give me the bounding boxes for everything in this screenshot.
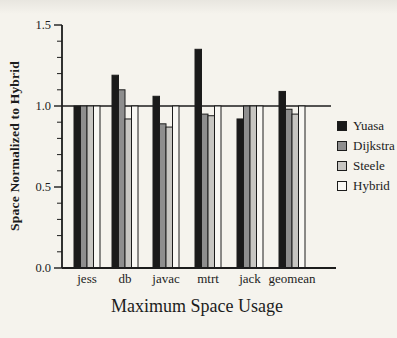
legend-swatch-yuasa (337, 121, 347, 131)
bar-steele-jess (87, 106, 94, 268)
x-tick-label-db: db (119, 271, 132, 286)
bar-dijkstra-jess (81, 106, 88, 268)
legend: YuasaDijkstraSteeleHybrid (337, 116, 395, 196)
scanned-figure-page: 0.00.51.01.5jessdbjavacmtrtjackgeomean S… (0, 0, 397, 338)
bar-yuasa-jack (237, 119, 244, 268)
legend-item-hybrid: Hybrid (337, 176, 395, 196)
x-axis-title: Maximum Space Usage (111, 296, 283, 317)
bar-hybrid-javac (173, 106, 180, 268)
x-tick-label-javac: javac (151, 271, 180, 286)
bar-yuasa-javac (153, 96, 160, 268)
bar-steele-geomean (292, 114, 299, 268)
y-axis-title: Space Normalized to Hybrid (7, 61, 23, 231)
bar-steele-db (125, 119, 132, 268)
bar-dijkstra-db (119, 90, 126, 268)
y-tick-label: 0.0 (35, 261, 51, 275)
bar-hybrid-db (132, 106, 139, 268)
legend-item-dijkstra: Dijkstra (337, 136, 395, 156)
y-tick-label: 0.5 (35, 180, 51, 194)
bar-steele-mtrt (208, 116, 215, 268)
legend-swatch-dijkstra (337, 141, 347, 151)
y-tick-label: 1.0 (35, 99, 51, 113)
bar-dijkstra-javac (160, 124, 167, 268)
legend-label: Yuasa (353, 118, 384, 134)
bar-hybrid-geomean (299, 106, 306, 268)
x-tick-label-geomean: geomean (269, 271, 316, 286)
legend-label: Steele (353, 158, 385, 174)
legend-swatch-steele (337, 161, 347, 171)
bar-yuasa-db (112, 75, 119, 268)
legend-swatch-hybrid (337, 181, 347, 191)
legend-item-steele: Steele (337, 156, 395, 176)
x-tick-label-jess: jess (76, 271, 97, 286)
x-tick-label-jack: jack (238, 271, 261, 286)
bar-steele-jack (250, 106, 257, 268)
bar-dijkstra-mtrt (202, 114, 209, 268)
y-tick-label: 1.5 (35, 18, 51, 32)
bar-dijkstra-geomean (286, 109, 293, 268)
bar-hybrid-jack (257, 106, 264, 268)
bar-yuasa-geomean (279, 91, 286, 268)
bar-yuasa-jess (74, 106, 81, 268)
bar-hybrid-mtrt (215, 106, 222, 268)
x-tick-label-mtrt: mtrt (197, 271, 219, 286)
bar-hybrid-jess (94, 106, 101, 268)
legend-item-yuasa: Yuasa (337, 116, 395, 136)
legend-label: Hybrid (353, 178, 390, 194)
bar-dijkstra-jack (244, 106, 251, 268)
bar-yuasa-mtrt (195, 49, 202, 268)
legend-label: Dijkstra (353, 138, 395, 154)
bar-steele-javac (166, 127, 173, 268)
